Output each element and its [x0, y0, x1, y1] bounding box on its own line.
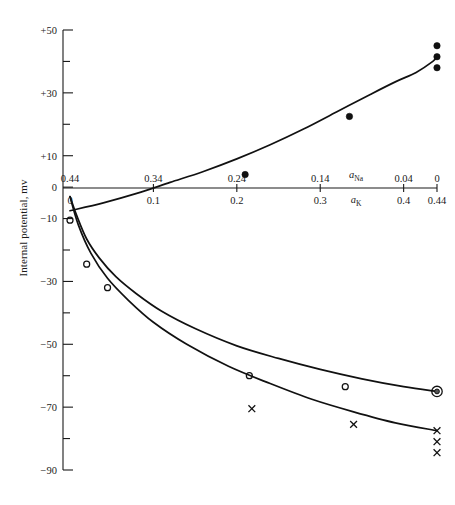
data-point-open-circle — [84, 261, 90, 267]
data-markers — [67, 43, 442, 457]
data-curves — [70, 57, 437, 431]
y-tick-label: −90 — [41, 465, 57, 476]
y-axis-tick-labels: +50+30+100−10−30−50−70−90 — [41, 25, 57, 476]
x-tick-label-top: 0.44 — [61, 173, 80, 184]
x-tick-label-top: 0.14 — [311, 173, 330, 184]
y-tick-label: +10 — [41, 151, 57, 162]
data-point-filled-circle — [434, 65, 440, 71]
x-axis-top-name: aNa — [349, 169, 364, 183]
y-tick-label: +50 — [41, 25, 57, 36]
plot-svg: +50+30+100−10−30−50−70−90 0.440.340.240.… — [0, 0, 455, 505]
x-tick-label-bottom: 0.1 — [147, 195, 160, 206]
x-tick-label-top: 0.04 — [394, 173, 413, 184]
y-tick-label: −30 — [41, 276, 57, 287]
curve-lower-curve-x-markers — [70, 197, 437, 431]
y-tick-label: −10 — [41, 213, 57, 224]
x-tick-label-bottom: 0.3 — [314, 195, 327, 206]
figure-container: Internal potential, mv +50+30+100−10−30−… — [0, 0, 455, 505]
x-axis-top-tick-labels: 0.440.340.240.140.040 — [61, 173, 440, 184]
data-point-filled-circle — [434, 43, 440, 49]
data-point-open-circle — [342, 384, 348, 390]
x-tick-label-top: 0 — [434, 173, 439, 184]
x-axis-bottom-name: aK — [351, 194, 362, 208]
y-tick-label: −70 — [41, 402, 57, 413]
y-tick-label: 0 — [52, 182, 57, 193]
data-point-double-circle-inner — [435, 389, 440, 394]
data-point-filled-circle — [434, 54, 440, 60]
y-axis-ticks — [63, 30, 73, 470]
x-tick-label-top: 0.34 — [144, 173, 163, 184]
curve-middle-curve-open-circles — [70, 197, 437, 392]
y-tick-label: −50 — [41, 339, 57, 350]
x-tick-label-bottom: 0.44 — [428, 195, 447, 206]
data-point-filled-circle — [346, 113, 352, 119]
y-tick-label: +30 — [41, 88, 57, 99]
x-tick-label-bottom: 0.4 — [397, 195, 411, 206]
x-tick-label-bottom: 0.2 — [230, 195, 243, 206]
data-point-open-circle — [105, 285, 111, 291]
data-point-filled-circle — [242, 171, 248, 177]
